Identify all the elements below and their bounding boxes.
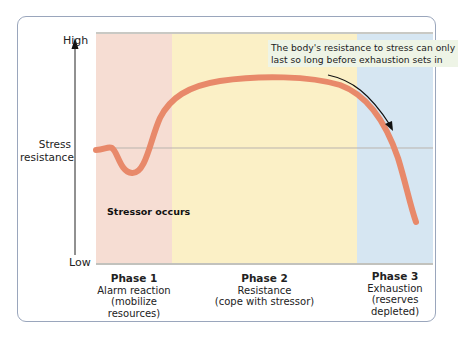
phase-1-name: Phase 1 (96, 273, 172, 285)
y-axis-low-label: Low (69, 257, 91, 270)
phase-2-name: Phase 2 (172, 273, 357, 285)
resistance-curve (96, 77, 416, 222)
y-axis-title-line2: resistance (20, 151, 71, 164)
phase-3-name: Phase 3 (357, 271, 433, 283)
note-line-2: last so long before exhaustion sets in (271, 54, 455, 66)
phase-3-line1: Exhaustion (357, 283, 433, 295)
exhaustion-note: The body's resistance to stress can only… (268, 40, 458, 67)
y-axis-title: Stress resistance (20, 138, 71, 163)
phase-2-line2: (cope with stressor) (172, 296, 357, 308)
y-axis-high-label: High (63, 35, 88, 48)
phase-1-line2: (mobilize (96, 296, 172, 308)
phase-3-line2: (reserves (357, 294, 433, 306)
phase-3-line3: depleted) (357, 306, 433, 318)
phase-3-label: Phase 3 Exhaustion (reserves depleted) (357, 271, 433, 317)
y-axis-title-line1: Stress (20, 138, 71, 151)
phase-2-line1: Resistance (172, 285, 357, 297)
phase-2-label: Phase 2 Resistance (cope with stressor) (172, 273, 357, 308)
note-line-1: The body's resistance to stress can only (271, 42, 455, 54)
stressor-occurs-label: Stressor occurs (107, 206, 190, 217)
phase-1-line1: Alarm reaction (96, 285, 172, 297)
phase-1-label: Phase 1 Alarm reaction (mobilize resourc… (96, 273, 172, 319)
phase-1-line3: resources) (96, 308, 172, 320)
